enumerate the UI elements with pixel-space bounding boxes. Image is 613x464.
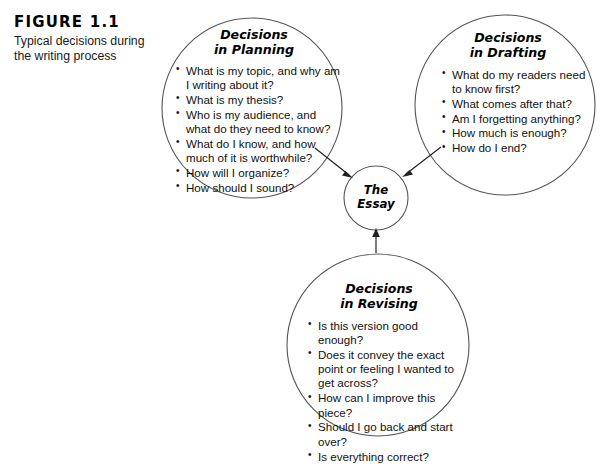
list-item: How will I organize? [176,166,340,180]
essay-center-label: The Essay [345,183,407,211]
list-item: How can I improve this piece? [308,391,466,420]
list-item: Is this version good enough? [308,319,466,348]
list-item: Is everything correct? [308,450,466,464]
drafting-title: Decisions in Drafting [424,30,592,61]
list-item: How do I end? [442,141,592,155]
revising-node-content: Decisions in Revising Is this version go… [292,281,466,464]
list-item: How should I sound? [176,181,340,195]
revising-title: Decisions in Revising [292,281,466,312]
list-item: What is my thesis? [176,93,340,107]
planning-list: What is my topic, and why am I writing a… [176,64,340,195]
list-item: How much is enough? [442,126,592,140]
list-item: What comes after that? [442,97,592,111]
planning-node-content: Decisions in Planning What is my topic, … [168,27,340,196]
revising-list: Is this version good enough? Does it con… [308,319,466,464]
list-item: What do I know, and how much of it is wo… [176,137,340,166]
list-item: Am I forgetting anything? [442,112,592,126]
list-item: Who is my audience, and what do they nee… [176,108,340,137]
drafting-node-content: Decisions in Drafting What do my readers… [424,30,592,156]
list-item: What is my topic, and why am I writing a… [176,64,340,93]
planning-title: Decisions in Planning [168,27,340,58]
list-item: Does it convey the exact point or feelin… [308,348,466,391]
drafting-list: What do my readers need to know first? W… [442,68,592,156]
list-item: What do my readers need to know first? [442,68,592,97]
list-item: Should I go back and start over? [308,420,466,449]
arrow-revising-to-essay [372,228,380,253]
